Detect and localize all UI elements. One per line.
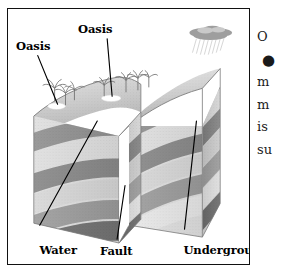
label-underground-water: Underground water <box>160 231 250 265</box>
label-oasis-left: Oasis <box>16 40 50 53</box>
label-fault: Fault <box>100 245 133 258</box>
label-oasis-top: Oasis <box>78 23 112 36</box>
label-water-table: Water table <box>16 231 77 265</box>
body-text-line-5: is <box>257 116 287 139</box>
figure-panel: Oasis Oasis Water table Fault Undergroun… <box>7 8 250 265</box>
label-underground-water-line1: Underground <box>183 243 250 257</box>
bullet-icon: ● <box>257 49 287 72</box>
body-text-line-3: m <box>257 71 287 94</box>
oasis-pool-left <box>48 103 66 110</box>
body-text-line-6: su <box>257 139 287 162</box>
body-text-column: O ● m m is su <box>257 26 287 161</box>
page-root: Oasis Oasis Water table Fault Undergroun… <box>0 0 287 276</box>
fault-gap <box>119 126 129 243</box>
body-text-line-1: O <box>257 26 287 49</box>
body-text-line-4: m <box>257 94 287 117</box>
label-water-table-line1: Water <box>39 243 77 257</box>
